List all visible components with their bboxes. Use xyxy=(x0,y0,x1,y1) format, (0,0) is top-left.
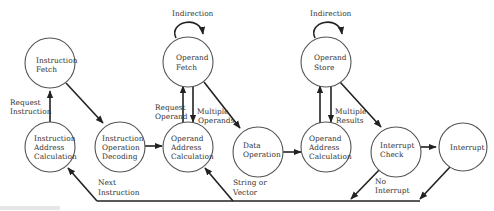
node-data-operation: Data Operation xyxy=(233,127,283,177)
node-interrupt: Interrupt xyxy=(439,123,487,171)
edge-next-instruction xyxy=(68,168,97,201)
edge-indirection-fetch xyxy=(175,22,203,38)
svg-text:Calculation: Calculation xyxy=(171,152,214,161)
svg-text:Store: Store xyxy=(314,63,334,72)
label-no-interrupt-1: No xyxy=(375,177,386,186)
cropped-caption-residue xyxy=(0,206,60,210)
svg-text:Operation: Operation xyxy=(102,143,140,152)
svg-text:Instruction: Instruction xyxy=(34,134,76,143)
label-multiple-operands-1: Multiple xyxy=(197,107,229,116)
svg-text:Instruction: Instruction xyxy=(36,56,78,65)
node-operand-fetch: Operand Fetch xyxy=(163,37,213,87)
edge-labels: Request Instruction Request Operand Mult… xyxy=(10,9,410,197)
label-multiple-results-1: Multiple xyxy=(335,107,367,116)
node-interrupt-check: Interrupt Check xyxy=(371,127,421,177)
edge-fetch-to-decode xyxy=(66,83,103,123)
svg-text:Address: Address xyxy=(170,143,201,152)
label-string-or-vector-2: Vector xyxy=(232,188,258,197)
label-request-instruction-2: Instruction xyxy=(10,107,52,116)
label-request-instruction-1: Request xyxy=(10,98,41,107)
edge-indirection-store xyxy=(314,22,342,38)
node-operand-address-calculation-2: Operand Address Calculation xyxy=(301,122,352,172)
svg-text:Operand: Operand xyxy=(176,53,209,62)
label-request-operand-1: Request xyxy=(155,103,186,112)
instruction-cycle-state-diagram: Instruction Fetch Instruction Address Ca… xyxy=(0,0,494,211)
svg-text:Address: Address xyxy=(33,143,64,152)
svg-text:Data: Data xyxy=(243,141,261,150)
label-next-instruction-1: Next xyxy=(98,178,116,187)
edge-string-or-vector xyxy=(205,168,233,201)
svg-text:Operation: Operation xyxy=(243,150,281,159)
label-multiple-results-2: Results xyxy=(336,116,364,125)
label-string-or-vector-1: String or xyxy=(233,178,267,187)
svg-text:Decoding: Decoding xyxy=(102,152,138,161)
svg-text:Calculation: Calculation xyxy=(34,152,77,161)
label-multiple-operands-2: Operands xyxy=(198,116,235,125)
svg-text:Interrupt: Interrupt xyxy=(450,143,485,152)
svg-text:Check: Check xyxy=(380,150,404,159)
label-next-instruction-2: Instruction xyxy=(98,188,140,197)
node-instruction-operation-decoding: Instruction Operation Decoding xyxy=(95,122,145,172)
svg-text:Operand: Operand xyxy=(314,53,347,62)
svg-text:Operand: Operand xyxy=(309,134,342,143)
edge-interrupt-return xyxy=(420,167,450,199)
svg-text:Fetch: Fetch xyxy=(36,65,57,74)
svg-text:Instruction: Instruction xyxy=(102,134,144,143)
label-no-interrupt-2: Interrupt xyxy=(375,186,410,195)
svg-text:Interrupt: Interrupt xyxy=(380,141,415,150)
node-operand-store: Operand Store xyxy=(301,37,351,87)
svg-text:Address: Address xyxy=(308,143,339,152)
node-instruction-address-calculation: Instruction Address Calculation xyxy=(25,122,77,172)
node-operand-address-calculation-1: Operand Address Calculation xyxy=(163,122,214,172)
label-indirection-store: Indirection xyxy=(310,9,352,18)
svg-text:Fetch: Fetch xyxy=(176,63,197,72)
svg-text:Operand: Operand xyxy=(171,134,204,143)
label-request-operand-2: Operand xyxy=(155,112,188,121)
node-instruction-fetch: Instruction Fetch xyxy=(25,38,78,88)
svg-text:Calculation: Calculation xyxy=(309,152,352,161)
label-indirection-fetch: Indirection xyxy=(172,9,214,18)
